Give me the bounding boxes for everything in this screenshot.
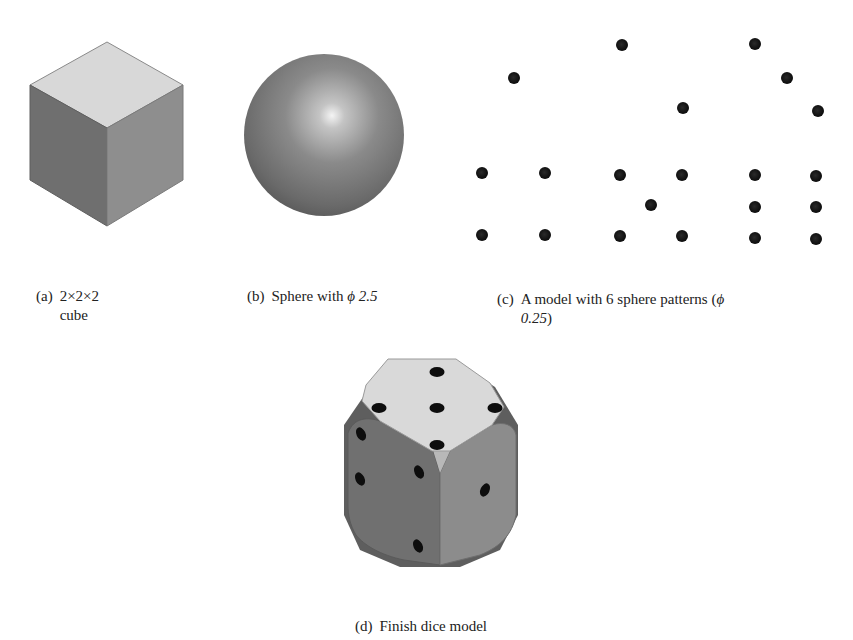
- sphere-dot: [812, 105, 824, 117]
- caption-text: Finish dice model: [380, 617, 556, 636]
- sphere-dot: [645, 199, 657, 211]
- caption-tag: (b): [247, 287, 265, 306]
- sphere-dot: [810, 170, 822, 182]
- cube-illustration: [28, 40, 186, 230]
- figure-b-sphere: [243, 53, 405, 217]
- caption-tag: (d): [355, 617, 373, 636]
- sphere-dot: [614, 230, 626, 242]
- phi-symbol: ϕ: [347, 288, 355, 304]
- figure-a-cube: [28, 40, 186, 230]
- caption-a: (a) 2×2×2 cube: [36, 287, 196, 325]
- sphere-dot: [676, 169, 688, 181]
- phi-symbol: ϕ: [716, 291, 724, 307]
- sphere-dot: [476, 167, 488, 179]
- sphere-dot: [614, 169, 626, 181]
- sphere-dot: [781, 72, 793, 84]
- caption-text: Sphere with ϕ 2.5: [272, 287, 468, 306]
- sphere-dot: [749, 38, 761, 50]
- sphere-dot: [476, 229, 488, 241]
- caption-text: 2×2×2 cube: [60, 287, 196, 325]
- sphere-dot: [616, 39, 628, 51]
- sphere-dot: [749, 201, 761, 213]
- sphere-dot: [539, 229, 551, 241]
- sphere-dot: [508, 72, 520, 84]
- sphere-dot: [749, 232, 761, 244]
- sphere-dot: [676, 230, 688, 242]
- caption-b: (b) Sphere with ϕ 2.5: [247, 287, 467, 306]
- sphere-dot: [810, 233, 822, 245]
- caption-c: (c) A model with 6 sphere patterns (ϕ 0.…: [497, 290, 797, 328]
- sphere-dot: [677, 102, 689, 114]
- caption-tag: (c): [497, 290, 514, 328]
- caption-text: A model with 6 sphere patterns (ϕ 0.25): [521, 290, 797, 328]
- caption-tag: (a): [36, 287, 53, 325]
- sphere-dot: [539, 167, 551, 179]
- dice-illustration: [340, 355, 520, 575]
- figure-d-dice: [340, 355, 520, 575]
- sphere-illustration: [243, 53, 405, 217]
- sphere-dot: [749, 169, 761, 181]
- caption-d: (d) Finish dice model: [355, 617, 555, 636]
- sphere-dot: [810, 201, 822, 213]
